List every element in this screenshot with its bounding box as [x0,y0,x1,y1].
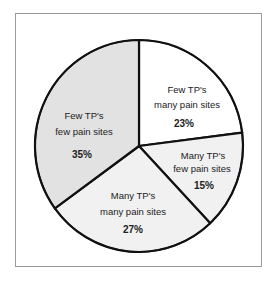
slice-label-line1: Few TP's [64,110,103,121]
slice-label-line2: many pain sites [100,206,166,217]
slice-label-line1: Many TP's [181,150,226,161]
slice-label-line2: few pain sites [55,126,113,137]
pie-slices [35,40,243,252]
slice-label-line2: many pain sites [154,99,220,110]
slice-percentage: 15% [194,180,214,191]
slice-percentage: 35% [72,149,92,160]
pie-chart: Few TP's many pain sites 23% Many TP's f… [0,0,278,283]
slice-label-line1: Few TP's [167,84,206,95]
slice-label-line2: few pain sites [173,163,231,174]
slice-percentage: 27% [123,224,143,235]
slice-percentage: 23% [174,118,194,129]
slice-label-line1: Many TP's [111,190,156,201]
